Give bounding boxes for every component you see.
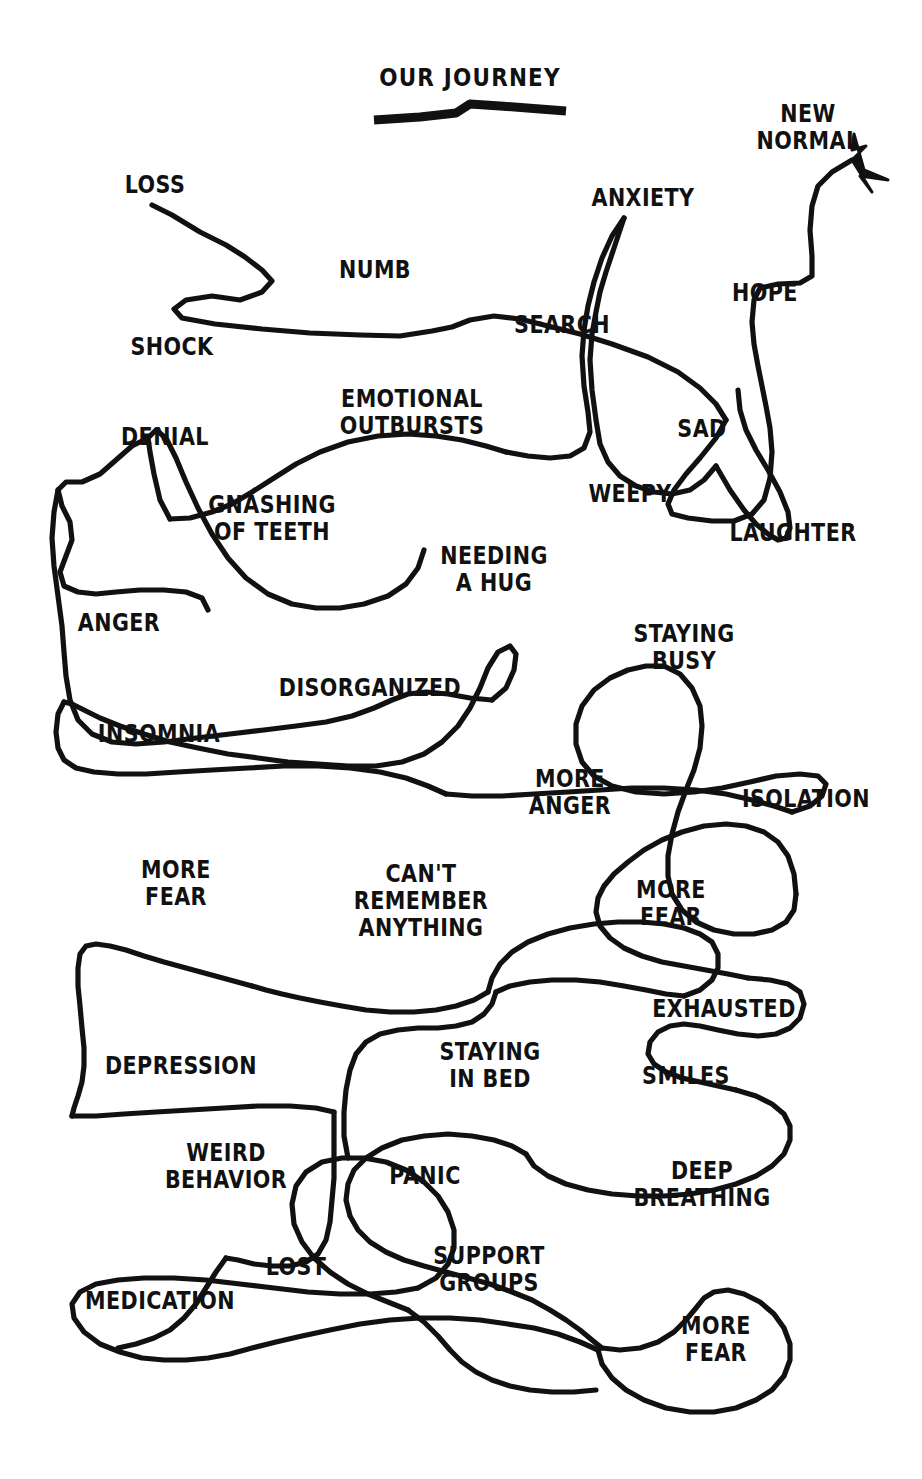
journey-path-segment-7 xyxy=(58,438,208,610)
journey-path-segment-26 xyxy=(72,944,252,1116)
journey-label-loss: LOSS xyxy=(125,172,185,199)
journey-label-weird-behavior: WEIRD BEHAVIOR xyxy=(165,1140,287,1194)
journey-label-lost: LOST xyxy=(266,1254,327,1281)
journey-label-search: SEARCH xyxy=(514,312,610,339)
journey-label-isolation: ISOLATION xyxy=(742,786,870,813)
journey-label-sad: SAD xyxy=(677,416,726,443)
title-underline xyxy=(374,104,566,120)
journey-label-exhausted: EXHAUSTED xyxy=(652,996,795,1023)
journey-path-segment-27 xyxy=(72,1106,334,1116)
journey-label-denial: DENIAL xyxy=(121,424,209,451)
journey-path-segment-9 xyxy=(64,646,516,766)
journey-path-segment-25 xyxy=(252,986,488,1012)
journey-label-weepy: WEEPY xyxy=(588,481,671,508)
journey-path-segment-17 xyxy=(346,1134,602,1348)
journey-label-more-anger: MORE ANGER xyxy=(529,766,611,820)
journey-label-anger: ANGER xyxy=(78,610,160,637)
journey-label-staying-busy: STAYING BUSY xyxy=(633,621,734,675)
journey-label-smiles: SMILES xyxy=(642,1063,730,1090)
journey-label-medication: MEDICATION xyxy=(85,1288,235,1315)
journey-label-support-groups: SUPPORT GROUPS xyxy=(433,1243,544,1297)
journey-path-to-new-normal xyxy=(716,390,790,540)
journey-label-panic: PANIC xyxy=(389,1163,460,1190)
journey-path-segment-2 xyxy=(668,160,852,521)
journey-label-more-fear-right: MORE FEAR xyxy=(636,877,706,931)
journey-label-more-fear-left: MORE FEAR xyxy=(141,857,211,911)
journey-path-segment-11 xyxy=(446,788,792,812)
journey-diagram: LOSSNUMBANXIETYNEW NORMALSHOCKSEARCHHOPE… xyxy=(0,0,922,1479)
journey-label-shock: SHOCK xyxy=(131,334,214,361)
journey-label-laughter: LAUGHTER xyxy=(730,520,857,547)
journey-path-segment-3 xyxy=(590,218,716,494)
journey-label-needing-a-hug: NEEDING A HUG xyxy=(440,543,548,597)
journey-label-deep-breathing: DEEP BREATHING xyxy=(633,1158,770,1212)
journey-label-new-normal: NEW NORMAL xyxy=(757,101,860,155)
journey-label-insomnia: INSOMNIA xyxy=(98,721,220,748)
journey-label-emotional-outbursts: EMOTIONAL OUTBURSTS xyxy=(340,386,484,440)
journey-label-gnashing-of-teeth: GNASHING OF TEETH xyxy=(208,492,336,546)
journey-label-cant-remember: CAN'T REMEMBER ANYTHING xyxy=(354,861,488,942)
journey-label-more-fear-bottom: MORE FEAR xyxy=(681,1313,751,1367)
journey-label-depression: DEPRESSION xyxy=(105,1053,257,1080)
journey-path-segment-10 xyxy=(56,702,446,794)
journey-label-numb: NUMB xyxy=(339,257,411,284)
journey-label-anxiety: ANXIETY xyxy=(592,185,695,212)
page-title: OUR JOURNEY xyxy=(379,64,561,92)
journey-label-staying-in-bed: STAYING IN BED xyxy=(439,1039,540,1093)
journey-label-disorganized: DISORGANIZED xyxy=(279,675,461,702)
journey-label-hope: HOPE xyxy=(732,280,798,307)
